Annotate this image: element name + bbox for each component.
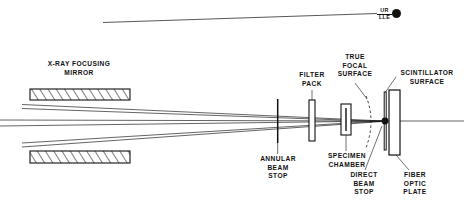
- label-fiber-optic-plate: FIBER OPTIC PLATE: [385, 171, 445, 197]
- logo-dot-icon: [392, 9, 401, 18]
- fiber-optic-plate-component: [389, 90, 400, 155]
- direct-beam-stop-component: [382, 118, 389, 125]
- filter-pack-component: [309, 100, 315, 141]
- x-ray-focusing-mirror-bottom: [30, 151, 130, 163]
- label-annular-beam-stop: ANNULAR BEAM STOP: [248, 155, 308, 181]
- label-specimen-chamber: SPECIMEN CHAMBER: [311, 152, 383, 169]
- ur-lle-logo: UR LLE: [377, 8, 392, 21]
- label-scintillator-surface: SCINTILLATOR SURFACE: [392, 69, 462, 86]
- label-true-focal-surface: TRUE FOCAL SURFACE: [322, 53, 388, 79]
- label-x-ray-focusing-mirror: X-RAY FOCUSING MIRROR: [14, 60, 144, 77]
- logo-leader-line: [103, 14, 377, 23]
- logo-lle-text: LLE: [377, 15, 392, 21]
- fiber-optic-plate-leader: [396, 155, 409, 170]
- specimen-chamber-component: [341, 104, 351, 135]
- x-ray-focusing-mirror-top: [30, 89, 130, 100]
- xray-optics-diagram: X-RAY FOCUSING MIRROR FILTER PACK ANNULA…: [0, 0, 464, 207]
- true-focal-surface-leader: [355, 83, 367, 99]
